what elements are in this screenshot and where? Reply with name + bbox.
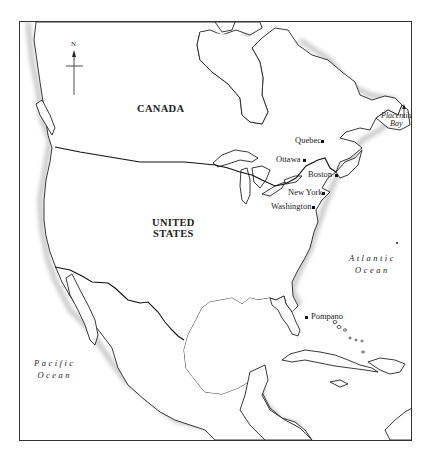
city-label-boston: Boston bbox=[308, 170, 332, 179]
city-marker-pompano bbox=[305, 316, 308, 319]
compass-north-label: N bbox=[71, 41, 76, 48]
city-marker-boston bbox=[335, 174, 338, 177]
label-placentia-bay: Placentia Bay bbox=[381, 112, 412, 128]
label-pacific-ocean: Pacific Ocean bbox=[34, 359, 76, 379]
country-label-canada: CANADA bbox=[137, 104, 184, 115]
jamaica bbox=[330, 380, 348, 387]
city-label-washington: Washington bbox=[271, 202, 311, 211]
atlantic-line1: Atlantic bbox=[349, 254, 396, 263]
north-america-map bbox=[0, 0, 427, 458]
city-label-pompano: Pompano bbox=[311, 312, 343, 321]
pacific-line2: Ocean bbox=[34, 371, 76, 380]
city-label-quebec: Quebec bbox=[295, 136, 321, 145]
placentia-bay-line2: Bay bbox=[381, 120, 412, 128]
pacific-line1: Pacific bbox=[34, 359, 76, 368]
city-label-ottawa: Ottawa bbox=[276, 155, 301, 164]
label-atlantic-ocean: Atlantic Ocean bbox=[349, 254, 396, 274]
city-marker-quebec bbox=[321, 140, 324, 143]
united-states-line2: STATES bbox=[152, 229, 195, 240]
south-america bbox=[385, 408, 412, 440]
gulf-of-mexico bbox=[184, 296, 412, 394]
country-label-united-states: UNITED STATES bbox=[152, 218, 195, 239]
atlantic-line2: Ocean bbox=[349, 266, 396, 275]
city-marker-new-york bbox=[322, 192, 325, 195]
united-states-line1: UNITED bbox=[152, 218, 195, 229]
landmasses bbox=[34, 22, 412, 440]
city-label-new-york: New York bbox=[288, 188, 322, 197]
city-marker-washington bbox=[312, 206, 315, 209]
city-marker-ottawa bbox=[303, 159, 306, 162]
